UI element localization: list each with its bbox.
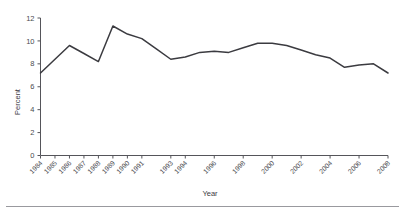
y-tick-label: 10 — [26, 37, 34, 46]
y-tick-label: 0 — [30, 151, 34, 160]
y-tick-label: 8 — [30, 59, 34, 68]
y-tick-label: 12 — [26, 14, 34, 23]
line-chart-figure: 024681012 Percent 1984198519861987198819… — [0, 0, 405, 210]
y-axis-title: Percent — [13, 88, 22, 115]
y-tick-label: 6 — [30, 82, 34, 91]
chart-background — [0, 0, 405, 210]
y-tick-label: 4 — [30, 105, 34, 114]
y-tick-label: 2 — [30, 128, 34, 137]
x-axis-title: Year — [202, 189, 218, 198]
